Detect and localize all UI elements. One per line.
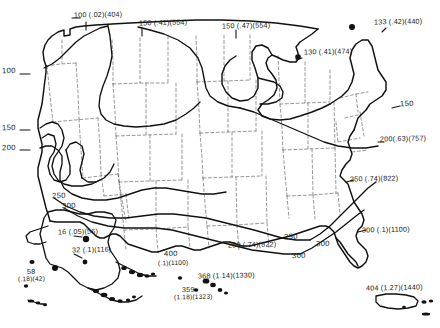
alaska-inset	[26, 210, 156, 304]
annotation-label: 200(.63)(757)	[380, 135, 426, 143]
annotation-label: 130 (.41)(474)	[304, 47, 352, 55]
contour-value-label: 250	[284, 233, 298, 241]
annotation-label: 368 (1.14)(1330)	[198, 271, 255, 279]
annotation-label: 133 (.42)(440)	[374, 17, 422, 25]
state-boundaries-layer	[46, 35, 368, 252]
station-marker	[52, 265, 58, 271]
contour-value-label: 200	[2, 144, 16, 152]
annotation-label: 250 (.74)(822)	[228, 240, 276, 248]
contour-lines-layer	[40, 26, 378, 254]
station-marker	[83, 236, 89, 242]
contour-value-label: 250	[52, 192, 66, 200]
annotation-label: 250 (.74)(822)	[350, 174, 398, 182]
station-marker	[349, 24, 355, 30]
annotation-label: 16 (.05)(56)	[58, 228, 98, 236]
contour-value-label: 150	[400, 100, 414, 108]
annotation-label: (.18)(42)	[18, 276, 45, 283]
alaska-islands	[24, 260, 155, 306]
contour-300-east	[300, 210, 364, 254]
contour-100b	[99, 26, 200, 127]
contour-value-label: 150	[2, 124, 16, 132]
contour-200-west	[40, 146, 226, 200]
annotation-label: 400	[164, 250, 178, 258]
contour-value-label: 300	[316, 240, 330, 248]
contour-value-label: 300	[292, 252, 306, 260]
puerto-rico-inset	[376, 294, 418, 309]
contour-150-west	[40, 122, 100, 186]
contour-100	[44, 26, 108, 68]
contour-map-figure: 100 (.02)(404) 150 (.41)(554) 150 (.47)(…	[0, 0, 440, 328]
contour-pocket-1	[42, 134, 56, 174]
station-marker	[83, 260, 88, 265]
contour-pocket-4	[82, 164, 114, 182]
annotation-label: 150 (.47)(554)	[222, 21, 270, 29]
contour-value-label: 300	[62, 202, 76, 210]
annotation-label: 150 (.41)(554)	[139, 18, 187, 26]
annotation-label: 404 (1.27)(1440)	[366, 283, 423, 291]
annotation-label: (1.18)(1323)	[174, 294, 213, 301]
contour-value-label: 100	[2, 67, 16, 75]
annotation-label: (.1)(1100)	[158, 260, 189, 267]
annotation-label: 100 (.02)(404)	[74, 10, 122, 18]
annotation-label: 32 (.1)(116)	[72, 246, 112, 254]
annotation-label: 300 (.1)(1100)	[362, 226, 410, 234]
